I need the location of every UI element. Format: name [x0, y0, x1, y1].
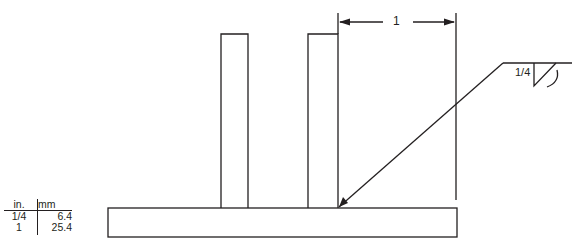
arrowhead-dim-right — [444, 19, 455, 26]
arrowhead-dim-left — [339, 19, 350, 26]
table-divider — [37, 199, 38, 235]
leader-line — [339, 63, 503, 207]
dimension-label: 1 — [393, 16, 400, 27]
weld-size-label: 1/4 — [515, 67, 530, 78]
arrowhead-leader — [339, 197, 348, 207]
vertical-plate-right — [308, 34, 338, 208]
table-row: 1 25.4 — [4, 222, 72, 233]
header-in: in. — [4, 199, 34, 210]
header-mm: mm — [34, 199, 72, 210]
cell-mm: 25.4 — [34, 222, 72, 233]
conversion-table: in. mm 1/4 6.4 1 25.4 — [4, 199, 72, 233]
fillet-weld-symbol — [534, 63, 556, 86]
cell-in: 1 — [4, 222, 34, 233]
vertical-plate-left — [221, 34, 248, 208]
base-plate — [108, 208, 457, 237]
weld-drawing — [0, 0, 580, 251]
convex-contour-arc — [547, 70, 558, 87]
